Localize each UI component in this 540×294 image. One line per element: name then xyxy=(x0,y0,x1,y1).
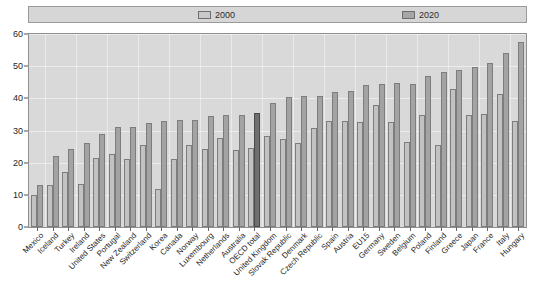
bar-group xyxy=(479,34,495,227)
y-axis-tick-label: 0 xyxy=(18,222,23,232)
bar-2020 xyxy=(286,97,292,227)
bar-2020 xyxy=(518,42,524,227)
bar-2020 xyxy=(208,116,214,227)
bar-2020 xyxy=(456,70,462,227)
bar-group xyxy=(448,34,464,227)
y-axis-tick-label: 50 xyxy=(13,61,23,71)
bar-chart: 2000 2020 0102030405060 MexicoIcelandTur… xyxy=(0,0,540,294)
bar-2020 xyxy=(270,103,276,227)
bar-2020 xyxy=(68,149,74,227)
bar-2020 xyxy=(239,115,245,227)
legend-swatch-2020-icon xyxy=(402,11,415,19)
bar-2020 xyxy=(115,127,121,227)
bar-group xyxy=(278,34,294,227)
bar-group xyxy=(107,34,123,227)
bar-group xyxy=(153,34,169,227)
bar-2020 xyxy=(146,123,152,227)
y-axis-tick-label: 20 xyxy=(13,158,23,168)
bar-2020 xyxy=(192,120,198,227)
legend-entry-2000: 2000 xyxy=(198,9,235,21)
bar-2020 xyxy=(441,72,447,227)
y-axis-tick-label: 40 xyxy=(13,93,23,103)
bar-2020 xyxy=(472,67,478,227)
y-axis-tick-label: 10 xyxy=(13,190,23,200)
bar-group xyxy=(495,34,511,227)
x-axis-labels: MexicoIcelandTurkeyIrelandUnited StatesP… xyxy=(29,231,526,294)
bar-group xyxy=(184,34,200,227)
bar-2020 xyxy=(254,113,260,227)
bar-2020 xyxy=(379,84,385,227)
bar-group xyxy=(246,34,262,227)
bar-group xyxy=(293,34,309,227)
chart-legend: 2000 2020 xyxy=(28,6,527,23)
bar-group xyxy=(371,34,387,227)
bar-2020 xyxy=(223,115,229,227)
bar-group xyxy=(355,34,371,227)
bar-group xyxy=(262,34,278,227)
bar-group xyxy=(122,34,138,227)
bar-2020 xyxy=(332,92,338,227)
bar-group xyxy=(510,34,526,227)
y-axis: 0102030405060 xyxy=(0,33,28,229)
bar-2020 xyxy=(503,53,509,227)
bar-group xyxy=(417,34,433,227)
bar-group xyxy=(169,34,185,227)
bar-2020 xyxy=(487,63,493,227)
bar-group xyxy=(433,34,449,227)
bar-2020 xyxy=(410,84,416,227)
legend-label-2000: 2000 xyxy=(215,10,235,21)
bar-2020 xyxy=(99,134,105,227)
bar-group xyxy=(45,34,61,227)
y-axis-tick-label: 30 xyxy=(13,126,23,136)
bar-2020 xyxy=(425,76,431,227)
bar-group xyxy=(60,34,76,227)
bar-2020 xyxy=(161,121,167,227)
bar-group xyxy=(29,34,45,227)
bar-group xyxy=(138,34,154,227)
bar-group xyxy=(324,34,340,227)
bar-2020 xyxy=(317,96,323,227)
bar-group xyxy=(200,34,216,227)
bar-group xyxy=(340,34,356,227)
bar-group xyxy=(91,34,107,227)
bar-group xyxy=(231,34,247,227)
bar-2020 xyxy=(130,127,136,227)
bar-2020 xyxy=(84,143,90,227)
legend-swatch-2000-icon xyxy=(198,11,211,19)
bar-2020 xyxy=(348,91,354,227)
bar-series-container xyxy=(29,34,526,227)
bar-2020 xyxy=(394,83,400,227)
bar-group xyxy=(464,34,480,227)
bar-group xyxy=(386,34,402,227)
y-axis-tick-label: 60 xyxy=(13,29,23,39)
bar-2020 xyxy=(363,85,369,227)
bar-group xyxy=(215,34,231,227)
bar-group xyxy=(309,34,325,227)
bar-2020 xyxy=(37,185,43,227)
bar-group xyxy=(402,34,418,227)
bar-2020 xyxy=(301,96,307,227)
bar-2020 xyxy=(177,120,183,227)
legend-entry-2020: 2020 xyxy=(402,9,439,21)
bar-2020 xyxy=(53,156,59,227)
legend-label-2020: 2020 xyxy=(419,10,439,21)
bar-group xyxy=(76,34,92,227)
